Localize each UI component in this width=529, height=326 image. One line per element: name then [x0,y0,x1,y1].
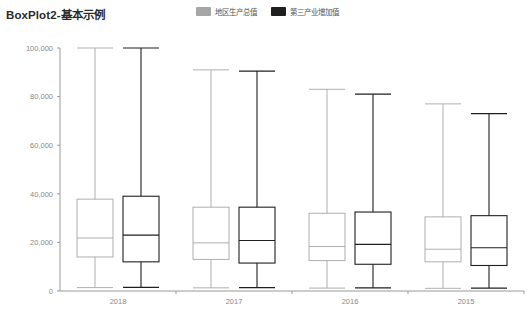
x-tick-label: 2016 [342,297,359,306]
box-rect [193,207,229,259]
box-plot-item[interactable] [425,104,461,288]
y-tick-label: 40,000 [30,190,53,199]
x-axis: 2018201720162015 [60,291,524,306]
x-tick-label: 2015 [458,297,475,306]
box-plot-item[interactable] [123,48,159,287]
box-rect [239,207,275,263]
y-tick-label: 60,000 [30,141,53,150]
box-rect [425,217,461,262]
box-plot-item[interactable] [239,71,275,288]
x-tick-label: 2018 [110,297,127,306]
boxplot-chart: BoxPlot2-基本示例 地区生产总值 第三产业增加值 020,00040,0… [0,0,529,326]
plot-area: 020,00040,00060,00080,000100,000 2018201… [0,0,529,326]
box-rect [77,199,113,257]
box-plot-item[interactable] [471,114,507,288]
y-axis: 020,00040,00060,00080,000100,000 [26,44,60,296]
y-tick-label: 20,000 [30,238,53,247]
box-series-group [77,48,507,288]
box-rect [355,212,391,264]
box-plot-item[interactable] [77,48,113,288]
y-tick-label: 0 [49,287,53,296]
x-tick-label: 2017 [226,297,243,306]
box-plot-item[interactable] [193,70,229,288]
box-rect [309,213,345,260]
y-tick-label: 100,000 [26,44,53,53]
box-rect [123,196,159,262]
box-plot-item[interactable] [355,94,391,288]
y-tick-label: 80,000 [30,92,53,101]
box-plot-item[interactable] [309,89,345,288]
box-rect [471,216,507,266]
